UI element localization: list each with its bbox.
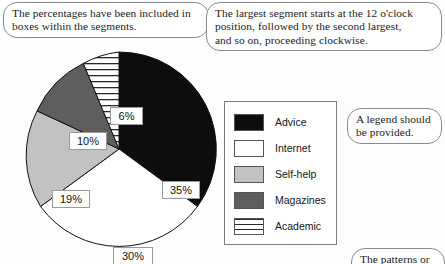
legend-label-academic: Academic [275,220,321,232]
callout-largest-segment: The largest segment starts at the 12 o'c… [206,2,442,51]
callout-largest-line2: position, followed by the second largest… [215,20,433,33]
callout-largest-line3: and so on, proceeding clockwise. [215,34,433,47]
callout-patterns: The patterns or [351,248,445,264]
legend-item-internet: Internet [234,135,336,161]
legend-item-selfhelp: Self-help [234,161,336,187]
legend-item-advice: Advice [234,109,336,135]
pie-label-internet: 30% [113,247,153,264]
callout-percentages-line2: boxes within the segments. [12,20,200,33]
callout-legend-line2: be provided. [356,126,433,139]
pie-label-advice: 35% [162,181,200,199]
callout-percentages: The percentages have been included in bo… [3,2,209,38]
pie-chart: 35% 30% 19% 10% 6% [21,51,217,247]
callout-largest-line1: The largest segment starts at the 12 o'c… [215,7,433,20]
legend-label-magazines: Magazines [275,194,326,206]
legend-item-magazines: Magazines [234,187,336,213]
pie-chart-annotated-figure: The percentages have been included in bo… [0,0,445,264]
legend-swatch-selfhelp [234,166,264,183]
pie-label-academic: 6% [110,107,143,125]
legend-swatch-academic [234,218,264,235]
callout-legend-note: A legend should be provided. [347,108,442,144]
legend-label-advice: Advice [275,116,307,128]
legend-swatch-advice [234,114,264,131]
callout-patterns-line1: The patterns or [360,253,436,264]
legend-label-selfhelp: Self-help [275,168,316,180]
legend-swatch-magazines [234,192,264,209]
pie-label-selfhelp: 19% [52,190,90,208]
legend-item-academic: Academic [234,213,336,239]
pie-chart-svg [21,51,217,247]
callout-legend-line1: A legend should [356,113,433,126]
chart-legend: Advice Internet Self-help Magazines Acad… [224,101,337,245]
legend-swatch-internet [234,140,264,157]
callout-percentages-line1: The percentages have been included in [12,7,200,20]
pie-label-magazines: 10% [69,132,107,150]
legend-label-internet: Internet [275,142,311,154]
